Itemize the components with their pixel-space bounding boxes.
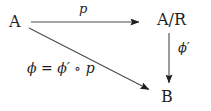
node-a: A — [9, 14, 21, 30]
commutative-diagram: A A/R B p ϕ′ ϕ = ϕ′ ∘ p — [0, 0, 211, 111]
arrow-label-phi-prime: ϕ′ — [178, 41, 190, 54]
arrow-label-p: p — [79, 2, 87, 15]
node-a-mod-r: A/R — [157, 12, 186, 28]
node-b: B — [161, 89, 173, 105]
arrow-label-composition: ϕ = ϕ′ ∘ p — [27, 61, 95, 75]
arrow-phi — [29, 28, 149, 90]
